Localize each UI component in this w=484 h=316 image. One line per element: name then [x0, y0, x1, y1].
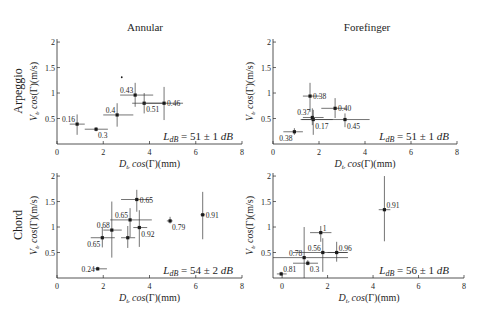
y-tick-label: 0.5 [45, 249, 55, 258]
point-label: 0.45 [347, 122, 360, 131]
x-tick-label: 6 [417, 282, 421, 291]
y-tick-label: 0.5 [45, 115, 55, 124]
x-tick-label: 0 [55, 282, 59, 291]
y-tick-label: 0.5 [261, 115, 271, 124]
y-tick-label: 0.5 [261, 249, 271, 258]
x-tick-label: 4 [371, 282, 375, 291]
x-tick-label: 4 [148, 282, 152, 291]
point-marker [293, 130, 296, 133]
y-tick-label: 1.5 [261, 64, 271, 73]
point-label: 0.81 [283, 265, 296, 274]
point-label: 0.16 [62, 115, 75, 124]
y-tick-label: 1 [267, 223, 271, 232]
point-label: 0.65 [115, 211, 128, 220]
x-tick-label: 2 [317, 148, 321, 157]
point-marker [303, 256, 306, 259]
point-label: 0.51 [146, 105, 159, 114]
x-tick-label: 8 [462, 282, 466, 291]
point-marker [76, 123, 79, 126]
row-label-chord: Chord [11, 210, 25, 240]
x-tick-label: 8 [455, 148, 459, 157]
point-marker [321, 251, 324, 254]
x-tick-label: 2 [101, 282, 105, 291]
point-label: 0.17 [315, 122, 328, 131]
y-tick-label: 1.5 [261, 198, 271, 207]
y-tick-label: 2 [51, 38, 55, 47]
x-tick-label: 4 [363, 148, 367, 157]
y-tick-label: 1.5 [45, 64, 55, 73]
x-tick-label: 2 [326, 282, 330, 291]
point-label: 0.79 [172, 223, 185, 232]
point-label: 0.38 [279, 134, 292, 143]
row-label-arpeggio: Arpeggio [11, 68, 25, 113]
x-tick-label: 6 [194, 282, 198, 291]
point-marker [135, 198, 138, 201]
y-tick-label: 1.5 [45, 198, 55, 207]
point-label: 0.4 [106, 106, 116, 115]
x-tick-label: 0 [280, 282, 284, 291]
point-marker [128, 218, 131, 221]
y-tick-label: 2 [267, 172, 271, 181]
point-marker [116, 113, 119, 116]
y-tick-label: 1 [51, 223, 55, 232]
point-marker [110, 228, 113, 231]
point-marker [134, 93, 137, 96]
point-marker [201, 213, 204, 216]
x-tick-label: 6 [194, 148, 198, 157]
x-tick-label: 0 [55, 148, 59, 157]
point-label: 0.56 [308, 244, 321, 253]
y-tick-label: 1 [51, 89, 55, 98]
stray-marker [121, 76, 123, 78]
point-label: 0.38 [313, 92, 326, 101]
point-label: 0.40 [338, 104, 351, 113]
x-tick-label: 8 [240, 282, 244, 291]
point-label: 0.3 [310, 265, 320, 274]
x-tick-label: 6 [409, 148, 413, 157]
point-label: 0.65 [87, 240, 100, 249]
point-label: 0.46 [167, 99, 180, 108]
column-title-forefinger: Forefinger [344, 21, 391, 33]
point-label: 0.24 [82, 265, 95, 274]
point-label: 0.78 [289, 249, 302, 258]
point-marker [96, 267, 99, 270]
y-tick-label: 2 [51, 172, 55, 181]
column-title-annular: Annular [127, 21, 163, 33]
point-marker [334, 107, 337, 110]
x-tick-label: 2 [101, 148, 105, 157]
point-label: 0.68 [97, 221, 110, 230]
point-label: 0.65 [140, 196, 153, 205]
point-label: 0.37 [297, 108, 310, 117]
y-tick-label: 1 [267, 89, 271, 98]
point-marker [162, 102, 165, 105]
x-tick-label: 0 [271, 148, 275, 157]
point-marker [126, 236, 129, 239]
x-tick-label: 8 [240, 148, 244, 157]
point-label: 0.43 [120, 86, 133, 95]
point-label: 0.92 [141, 230, 154, 239]
point-marker [101, 236, 104, 239]
point-label: 0.96 [339, 244, 352, 253]
point-label: 1 [323, 224, 327, 233]
figure: Annular Forefinger Arpeggio Chord 024680… [0, 0, 484, 316]
point-label: 0.91 [386, 201, 399, 210]
point-label: 0.3 [98, 131, 108, 140]
point-label: 0.91 [206, 211, 219, 220]
y-tick-label: 2 [267, 38, 271, 47]
x-tick-label: 4 [148, 148, 152, 157]
point-marker [308, 94, 311, 97]
